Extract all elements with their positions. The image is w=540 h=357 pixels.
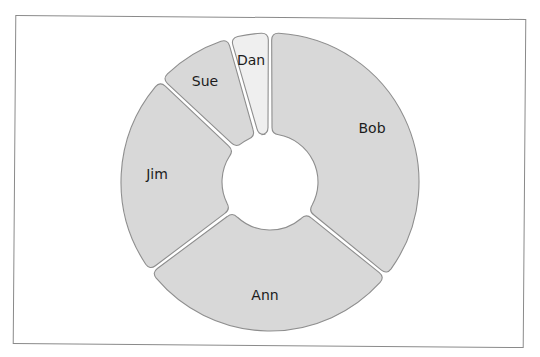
donut-chart: BobAnnJimSueDan — [0, 0, 540, 357]
slice-label-ann: Ann — [251, 287, 278, 303]
slice-label-dan: Dan — [237, 52, 265, 68]
slice-label-sue: Sue — [192, 73, 218, 89]
slice-label-jim: Jim — [145, 166, 168, 182]
slice-label-bob: Bob — [358, 120, 385, 136]
